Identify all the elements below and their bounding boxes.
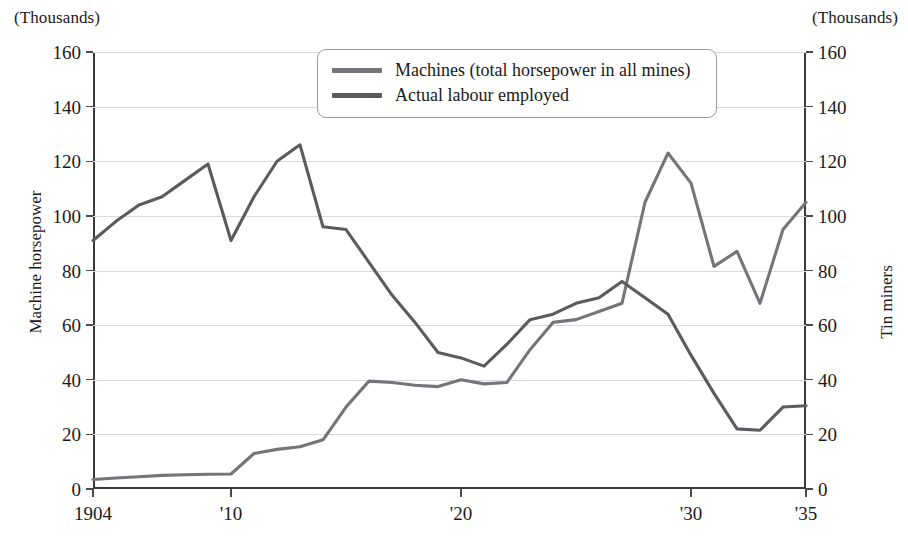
left-axis-units: (Thousands)	[14, 8, 100, 28]
right-y-tick	[806, 324, 813, 325]
left-y-tick	[86, 324, 93, 325]
left-y-tick	[86, 379, 93, 380]
left-y-tick-label: 80	[62, 262, 81, 281]
series-line	[93, 153, 806, 479]
right-y-tick	[806, 488, 813, 489]
chart-legend: Machines (total horsepower in all mines)…	[317, 49, 717, 118]
x-tick	[460, 489, 461, 497]
left-y-tick-label: 60	[62, 316, 81, 335]
right-y-tick-label: 80	[818, 262, 837, 281]
legend-swatch-icon	[332, 93, 382, 98]
right-axis-title: Tin miners	[877, 227, 897, 377]
left-y-tick	[86, 215, 93, 216]
right-y-tick-label: 40	[818, 371, 837, 390]
legend-item: Actual labour employed	[332, 83, 702, 108]
left-y-tick	[86, 161, 93, 162]
x-tick	[92, 489, 93, 497]
right-y-tick-label: 120	[818, 152, 847, 171]
left-y-tick-label: 140	[53, 98, 82, 117]
legend-item-label: Machines (total horsepower in all mines)	[395, 60, 690, 81]
left-y-tick-label: 160	[53, 43, 82, 62]
right-y-tick	[806, 161, 813, 162]
left-y-tick-label: 100	[53, 207, 82, 226]
right-y-tick	[806, 215, 813, 216]
x-tick-label: '10	[220, 503, 242, 525]
x-tick-label: '20	[450, 503, 472, 525]
right-y-tick	[806, 51, 813, 52]
right-y-tick-label: 20	[818, 425, 837, 444]
x-tick	[805, 489, 806, 497]
right-y-tick-label: 160	[818, 43, 847, 62]
left-y-tick	[86, 434, 93, 435]
left-axis-title: Machine horsepower	[26, 152, 46, 372]
right-y-tick-label: 140	[818, 98, 847, 117]
left-y-tick-label: 20	[62, 425, 81, 444]
series-line	[93, 145, 806, 430]
left-y-tick-label: 120	[53, 152, 82, 171]
x-tick-label: 1904	[74, 503, 112, 525]
right-y-tick-label: 60	[818, 316, 837, 335]
left-y-tick	[86, 270, 93, 271]
right-y-tick	[806, 270, 813, 271]
x-tick	[690, 489, 691, 497]
left-y-tick-label: 0	[72, 480, 82, 499]
legend-swatch-icon	[332, 68, 382, 73]
right-y-tick-label: 100	[818, 207, 847, 226]
left-y-tick	[86, 106, 93, 107]
x-tick	[230, 489, 231, 497]
chart-figure: (Thousands) (Thousands) Machine horsepow…	[0, 0, 908, 541]
x-tick-label: '30	[680, 503, 702, 525]
right-y-tick	[806, 106, 813, 107]
x-tick-label: '35	[795, 503, 817, 525]
right-y-tick	[806, 379, 813, 380]
right-y-tick	[806, 434, 813, 435]
right-axis-units: (Thousands)	[812, 8, 898, 28]
left-y-tick	[86, 51, 93, 52]
legend-item: Machines (total horsepower in all mines)	[332, 58, 702, 83]
right-y-tick-label: 0	[818, 480, 828, 499]
legend-item-label: Actual labour employed	[395, 85, 569, 106]
left-y-tick-label: 40	[62, 371, 81, 390]
